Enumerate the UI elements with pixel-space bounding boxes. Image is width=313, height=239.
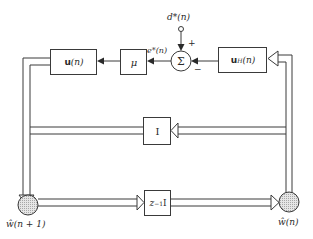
identity-suffix: I	[163, 199, 167, 208]
plus-sign: +	[188, 39, 196, 48]
delay-label: z−1I	[145, 191, 171, 216]
weight-current-node	[279, 192, 299, 212]
summer-label: Σ	[171, 51, 191, 71]
minus-sign: −	[194, 65, 202, 74]
desired-input-node	[179, 27, 184, 32]
feedback-path-outer	[278, 55, 292, 193]
arg-n: (n)	[71, 58, 84, 67]
weight-next-label: ŵ(n + 1)	[6, 220, 46, 229]
desired-signal-label: d*(n)	[167, 13, 190, 22]
weight-next-node	[18, 195, 38, 215]
delay-exponent: −1	[154, 201, 163, 207]
arg-n: (n)	[242, 56, 255, 65]
update-path-inner	[30, 65, 50, 195]
input-vector-label: u(n)	[51, 50, 97, 75]
weight-current-label: ŵ(n)	[278, 218, 299, 227]
hermitian-label: uH(n)	[219, 48, 267, 73]
step-size-label: μ	[121, 50, 147, 75]
identity-label: I	[144, 118, 171, 145]
error-signal-label: e*(n)	[147, 47, 167, 55]
